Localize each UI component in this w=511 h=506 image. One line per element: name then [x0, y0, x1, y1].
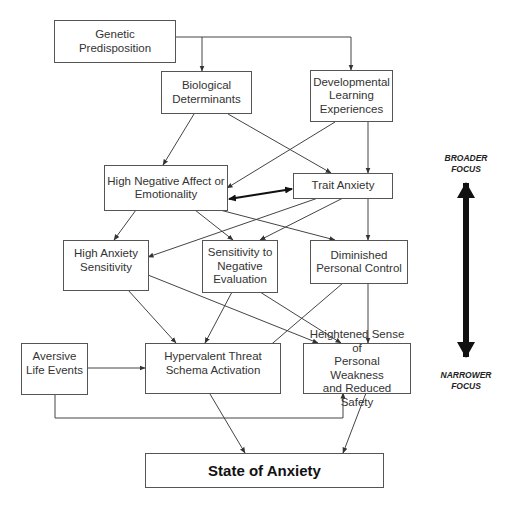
node-anxiety-sensitivity: High Anxiety Sensitivity [63, 240, 149, 291]
node-label: Heightened Sense of Personal Weakness an… [306, 328, 408, 409]
node-label: Diminished Personal Control [316, 249, 402, 276]
edge-negative-affect-neg-evaluation [195, 210, 233, 240]
edge-aversive-weakness [55, 393, 343, 418]
edge-trait-neg-evaluation [260, 198, 343, 240]
node-personal-control: Diminished Personal Control [310, 240, 408, 284]
broader-focus-label: BROADER FOCUS [431, 153, 501, 175]
node-label: High Anxiety Sensitivity [74, 247, 138, 274]
narrower-focus-label: NARROWER FOCUS [431, 370, 501, 392]
node-developmental-learning: Developmental Learning Experiences [310, 70, 393, 122]
node-label: Aversive Life Events [26, 350, 83, 377]
node-label: High Negative Affect or Emotionality [107, 175, 224, 202]
node-aversive-life-events: Aversive Life Events [21, 343, 88, 395]
node-label: Trait Anxiety [312, 179, 375, 193]
edge-negative-affect-anxiety-sensitivity [114, 210, 136, 240]
node-label: Biological Determinants [172, 79, 240, 106]
node-hypervalent-threat: Hypervalent Threat Schema Activation [145, 343, 281, 394]
node-state-of-anxiety: State of Anxiety [145, 453, 384, 488]
node-label: Genetic Predisposition [79, 28, 151, 55]
edge-genetic-developmental [202, 37, 351, 70]
edge-hypervalent-state [210, 394, 245, 453]
edge-biological-negative-affect [163, 114, 194, 165]
node-personal-weakness: Heightened Sense of Personal Weakness an… [303, 343, 411, 394]
node-label: Developmental Learning Experiences [313, 76, 390, 117]
node-label: Sensitivity to Negative Evaluation [208, 246, 273, 287]
node-label: State of Anxiety [208, 464, 321, 478]
node-genetic-predisposition: Genetic Predisposition [54, 20, 176, 63]
node-label: Hypervalent Threat Schema Activation [164, 350, 262, 377]
edge-biological-trait [228, 114, 331, 173]
node-negative-affect: High Negative Affect or Emotionality [104, 165, 228, 211]
edge-anxiety-sensitivity-hypervalent [128, 290, 176, 343]
node-biological-determinants: Biological Determinants [161, 71, 252, 114]
edge-negative-affect-trait-bidirectional [229, 189, 292, 199]
node-negative-evaluation: Sensitivity to Negative Evaluation [202, 240, 278, 293]
node-trait-anxiety: Trait Anxiety [293, 173, 393, 199]
edge-genetic-biological [176, 37, 202, 71]
edge-negative-affect-personal-control [220, 210, 335, 240]
